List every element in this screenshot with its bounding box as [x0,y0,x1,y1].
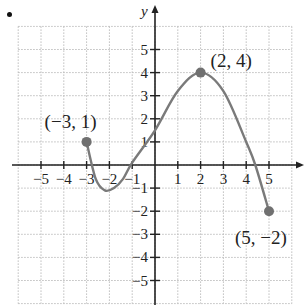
point-marker [264,206,274,216]
y-tick-label: −4 [132,249,148,265]
y-tick-label: −5 [132,273,148,289]
y-axis-label: y [139,3,148,19]
x-tick-label: 3 [220,171,228,187]
x-tick-label: −4 [56,171,72,187]
function-graph: −5−4−3−2−11234554321−1−2−3−4−5y (−3, 1)(… [0,0,305,308]
x-tick-label: 1 [174,171,182,187]
point-label: (−3, 1) [45,111,97,133]
y-axis-arrow-icon [152,5,159,13]
point-label: (2, 4) [211,50,252,72]
y-tick-label: −1 [132,180,148,196]
x-tick-label: −3 [79,171,95,187]
x-tick-label: 5 [265,171,273,187]
x-tick-label: 4 [242,171,250,187]
y-tick-label: 2 [141,111,149,127]
x-tick-label: −2 [101,171,117,187]
point-marker [82,137,92,147]
y-tick-label: 4 [141,65,149,81]
y-tick-label: −3 [132,226,148,242]
y-tick-label: −2 [132,203,148,219]
x-tick-label: 2 [197,171,205,187]
y-tick-label: 5 [141,42,149,58]
point-marker [196,68,206,78]
x-tick-label: −5 [33,171,49,187]
x-axis-arrow-icon [296,162,304,169]
point-label: (5, −2) [235,227,287,249]
y-tick-label: 3 [141,88,149,104]
